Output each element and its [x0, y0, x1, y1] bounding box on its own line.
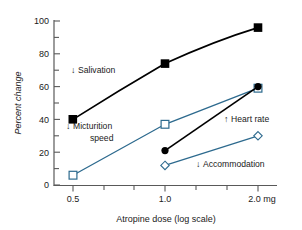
y-axis-title: Percent change [13, 71, 23, 134]
micturition-marker-1p0 [161, 120, 169, 128]
micturition-down-arrow-icon: ↓ [66, 121, 71, 131]
heart-rate-marker-2p0 [254, 83, 261, 90]
y-tick-label-0: 0 [44, 180, 49, 190]
x-axis-tick-labels: 0.5 1.0 2.0 mg [67, 194, 276, 204]
annotation-micturition-speed: ↓ Micturition speed [66, 121, 114, 143]
y-axis-tick-labels: 100 80 60 40 20 0 [34, 16, 49, 190]
annotation-salivation: ↓ Salivation [71, 65, 115, 75]
y-axis-ticks [54, 21, 60, 185]
salivation-marker-2p0 [254, 23, 263, 32]
chart-figure: 100 80 60 40 20 0 Percent change 0.5 1.0… [0, 0, 302, 230]
x-axis-ticks [73, 186, 258, 192]
salivation-marker-1p0 [161, 59, 170, 68]
accommodation-label: Accommodation [203, 159, 265, 169]
accommodation-marker-1p0 [161, 161, 169, 169]
micturition-marker-0p5 [69, 171, 77, 179]
heart-rate-label: Heart rate [231, 114, 269, 124]
y-tick-label-20: 20 [39, 148, 49, 158]
annotation-accommodation: ↓ Accommodation [196, 159, 265, 169]
micturition-label-line1: Micturition [73, 121, 112, 131]
x-tick-label-1p0: 1.0 [159, 194, 172, 204]
y-tick-label-100: 100 [34, 16, 49, 26]
x-axis-title: Atropine dose (log scale) [116, 214, 216, 224]
accommodation-down-arrow-icon: ↓ [196, 159, 201, 169]
y-tick-label-60: 60 [39, 82, 49, 92]
accommodation-marker-2p0 [254, 132, 262, 140]
salivation-down-arrow-icon: ↓ [71, 65, 76, 75]
y-tick-label-80: 80 [39, 49, 49, 59]
x-tick-label-2p0: 2.0 mg [248, 194, 276, 204]
x-tick-label-0p5: 0.5 [67, 194, 80, 204]
y-tick-label-40: 40 [39, 115, 49, 125]
micturition-label-line2: speed [90, 133, 114, 143]
annotation-heart-rate: ↑ Heart rate [224, 114, 269, 124]
chart-canvas: 100 80 60 40 20 0 Percent change 0.5 1.0… [0, 0, 302, 230]
heart-rate-up-arrow-icon: ↑ [224, 114, 229, 124]
salivation-label: Salivation [78, 65, 115, 75]
heart-rate-marker-1p0 [161, 147, 168, 154]
